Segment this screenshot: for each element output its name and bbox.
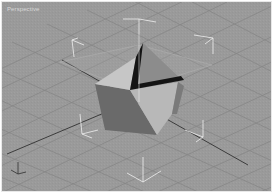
perspective-viewport[interactable]: Perspective — [1, 1, 272, 192]
viewport-label[interactable]: Perspective — [7, 6, 39, 12]
scene-canvas[interactable] — [2, 2, 271, 191]
